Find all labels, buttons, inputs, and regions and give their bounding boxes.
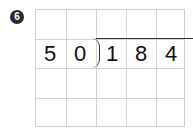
dividend-digit: 4 <box>156 39 186 68</box>
divisor-digit: 0 <box>65 39 95 68</box>
dividend-digit: 8 <box>126 39 156 68</box>
division-grid <box>35 9 185 127</box>
divisor-digit: 5 <box>35 39 65 68</box>
grid-line <box>36 68 184 69</box>
grid-line <box>36 98 184 99</box>
problem-number-badge: 6 <box>10 10 24 24</box>
dividend-digit: 1 <box>97 39 127 68</box>
